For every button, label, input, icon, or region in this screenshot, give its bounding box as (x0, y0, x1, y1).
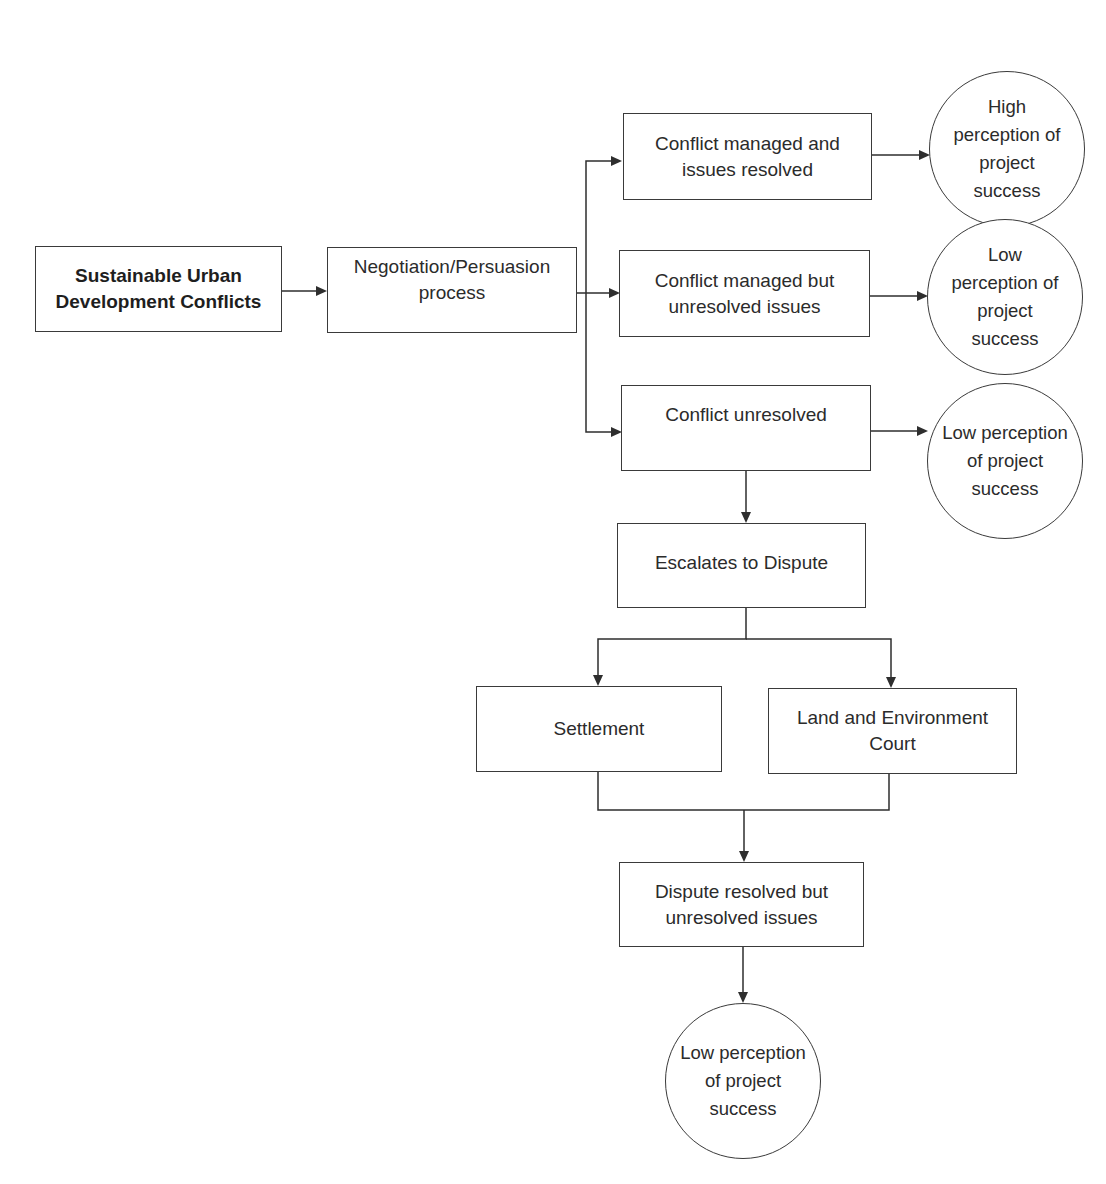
arrowhead-icon (316, 286, 327, 296)
node-label: Conflict managed and issues resolved (655, 131, 840, 183)
node-label: High perception of project success (954, 93, 1061, 205)
edge-escalates-court (746, 639, 891, 678)
arrowhead-icon (738, 992, 748, 1003)
arrowhead-icon (739, 851, 749, 862)
node-dispute-resolved-unresolved-issues: Dispute resolved but unresolved issues (619, 862, 864, 947)
arrowhead-icon (917, 426, 928, 436)
node-escalates-to-dispute: Escalates to Dispute (617, 523, 866, 608)
node-label: Conflict managed but unresolved issues (655, 268, 835, 320)
node-land-and-environment-court: Land and Environment Court (768, 688, 1017, 774)
node-settlement: Settlement (476, 686, 722, 772)
node-label: Escalates to Dispute (655, 550, 828, 576)
node-conflict-managed-unresolved-issues: Conflict managed but unresolved issues (619, 250, 870, 337)
arrowhead-icon (886, 677, 896, 688)
edge-branch-vertical (586, 161, 612, 432)
node-label: Settlement (554, 716, 645, 742)
node-label: Low perception of project success (952, 241, 1059, 353)
arrowhead-icon (593, 675, 603, 686)
arrowhead-icon (741, 512, 751, 523)
edge-settlement-merge (598, 771, 889, 810)
node-sustainable-urban-development-conflicts: Sustainable Urban Development Conflicts (35, 246, 282, 332)
node-low-perception-of-project-success-1: Low perception of project success (927, 219, 1083, 375)
node-label: Sustainable Urban Development Conflicts (56, 263, 262, 315)
node-label: Dispute resolved but unresolved issues (655, 879, 828, 931)
node-high-perception-of-project-success: High perception of project success (929, 71, 1085, 227)
node-label: Land and Environment Court (797, 705, 988, 757)
node-low-perception-of-project-success-3: Low perception of project success (665, 1003, 821, 1159)
edge-escalates-split (598, 607, 746, 676)
node-negotiation-persuasion-process: Negotiation/Persuasion process (327, 247, 577, 333)
node-label: Low perception of project success (942, 419, 1067, 503)
arrowhead-icon (611, 156, 622, 166)
node-conflict-unresolved: Conflict unresolved (621, 385, 871, 471)
node-label: Negotiation/Persuasion process (354, 254, 550, 306)
node-conflict-managed-issues-resolved: Conflict managed and issues resolved (623, 113, 872, 200)
node-label: Low perception of project success (680, 1039, 805, 1123)
node-label: Conflict unresolved (665, 402, 827, 428)
node-low-perception-of-project-success-2: Low perception of project success (927, 383, 1083, 539)
